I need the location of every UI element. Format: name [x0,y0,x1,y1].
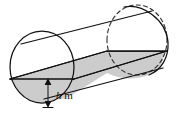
depth-label: h m [56,89,73,101]
figure-container: h m [0,0,179,120]
arrowhead-down [45,101,52,108]
depth-label-unit: m [64,89,73,101]
cylinder-diagram: h m [0,0,179,120]
cylinder-top-edge [21,11,152,44]
